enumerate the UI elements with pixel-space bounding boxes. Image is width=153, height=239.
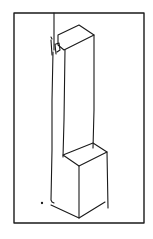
column-top: [58, 25, 94, 50]
column-left-edge: [63, 50, 65, 157]
box-top: [63, 143, 107, 166]
box-bottom: [51, 202, 105, 218]
box-right-edge: [107, 152, 108, 208]
sketch-canvas: [0, 0, 153, 239]
dot-mark: [41, 202, 42, 203]
column-right-edge: [93, 35, 94, 148]
